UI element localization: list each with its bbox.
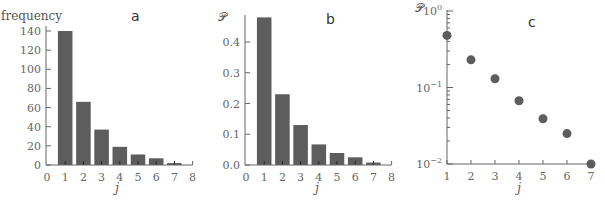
x-tick-label: 0 [44,171,51,184]
bar [293,125,308,165]
bar [275,94,290,165]
x-tick-label: 0 [243,171,250,184]
x-tick-label: 5 [540,170,547,183]
x-tick-label: 6 [352,171,359,184]
panel-b-axes: 0.00.10.20.30.4012345678 [223,15,396,184]
y-tick-label: 10−2 [416,156,442,171]
y-tick-label: 10−1 [416,80,442,95]
y-tick-label: 80 [27,82,41,95]
panel-a-bars [58,31,182,165]
y-tick-label: 0.0 [223,159,241,172]
data-point [563,129,572,138]
x-tick-label: 1 [62,171,69,184]
data-point [443,31,452,40]
bar [94,130,109,165]
x-tick-label: 6 [564,170,571,183]
data-point [467,55,476,64]
y-tick-label: 140 [20,25,41,38]
panel-a-letter: a [131,8,140,24]
y-tick-label: 100 [20,63,41,76]
x-tick-label: 6 [153,171,160,184]
x-tick-label: 2 [80,171,87,184]
panel-b-bars [257,17,381,165]
x-tick-label: 7 [370,171,377,184]
y-tick-label: 20 [27,140,41,153]
x-tick-label: 3 [297,171,304,184]
data-point [539,114,548,123]
x-tick-label: 1 [261,171,268,184]
y-tick-label: 0.2 [223,98,241,111]
y-tick-label: 40 [27,121,41,134]
panel-c-log-scatter-chart: 𝒫 c 10−210−11001234567 j [415,1,596,195]
data-point [491,74,500,83]
x-tick-label: 3 [492,170,499,183]
y-tick-label: 100 [423,3,442,18]
x-tick-label: 3 [98,171,105,184]
x-tick-label: 8 [189,171,196,184]
x-tick-label: 2 [468,170,475,183]
figure: frequency a 020406080100120140012345678 … [0,0,605,204]
y-tick-label: 0.4 [223,36,241,49]
panel-b-xlabel: j [312,181,319,195]
x-tick-label: 1 [444,170,451,183]
panel-c-points [443,31,596,169]
y-tick-label: 0.3 [223,67,241,80]
data-point [587,160,596,169]
x-tick-label: 7 [588,170,595,183]
y-tick-label: 120 [20,44,41,57]
x-tick-label: 5 [334,171,341,184]
panel-b-probability-bar-chart: 𝒫 b 0.00.10.20.30.4012345678 j [218,10,395,195]
x-tick-label: 5 [135,171,142,184]
bar [58,31,73,165]
x-tick-label: 8 [388,171,395,184]
panel-a-frequency-bar-chart: frequency a 020406080100120140012345678 … [1,8,196,195]
panel-b-ylabel: 𝒫 [218,10,228,24]
panel-b-letter: b [326,11,335,27]
bar [76,102,91,165]
panel-c-xlabel: j [514,181,521,195]
panel-a-ylabel: frequency [1,9,62,23]
bar [257,17,272,165]
x-tick-label: 7 [171,171,178,184]
data-point [515,96,524,105]
panel-c-letter: c [528,14,536,30]
y-tick-label: 0 [34,159,41,172]
y-tick-label: 60 [27,102,41,115]
y-tick-label: 0.1 [223,128,241,141]
x-tick-label: 2 [279,171,286,184]
panel-c-axes: 10−210−11001234567 [416,3,594,183]
panel-a-xlabel: j [112,181,119,195]
